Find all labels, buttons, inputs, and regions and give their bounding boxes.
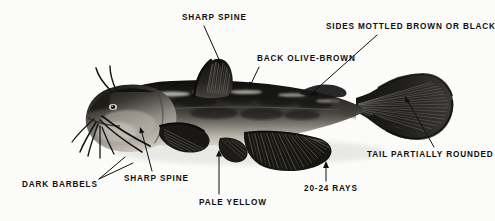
label-sides-mottled: SIDES MOTTLED BROWN OR BLACK: [326, 22, 495, 31]
label-dark-barbels: DARK BARBELS: [22, 180, 98, 189]
label-tail-rounded: TAIL PARTIALLY ROUNDED: [367, 150, 494, 159]
label-back-olive-brown: BACK OLIVE-BROWN: [257, 54, 356, 63]
label-rays-count: 20-24 RAYS: [304, 184, 358, 193]
catfish-identification-figure: SHARP SPINE SIDES MOTTLED BROWN OR BLACK…: [0, 0, 495, 221]
label-sharp-spine-pectoral: SHARP SPINE: [124, 174, 189, 183]
label-pale-yellow: PALE YELLOW: [199, 198, 267, 207]
label-sharp-spine-dorsal: SHARP SPINE: [182, 13, 247, 22]
